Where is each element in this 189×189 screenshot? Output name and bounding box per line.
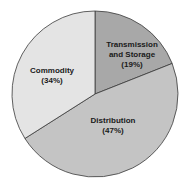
label-pct: (47%) [102,126,124,135]
label-text: and Storage [109,50,156,59]
label-pct: (19%) [121,60,143,69]
pie-slices [12,11,178,177]
label-text: Distribution [91,116,136,125]
label-text: Commodity [30,66,75,75]
pie-chart: Transmission and Storage (19%) Distribut… [0,0,189,189]
label-pct: (34%) [41,76,63,85]
label-text: Transmission [106,40,158,49]
